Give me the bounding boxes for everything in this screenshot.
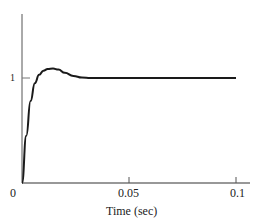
x-tick-label-0: 0 [10, 187, 16, 199]
x-tick-label-01: 0.1 [230, 187, 245, 199]
y-tick-label-1: 1 [10, 72, 15, 84]
x-tick-label-005: 0.05 [118, 187, 139, 199]
response-curve [22, 69, 236, 183]
x-axis-title: Time (sec) [106, 205, 157, 217]
